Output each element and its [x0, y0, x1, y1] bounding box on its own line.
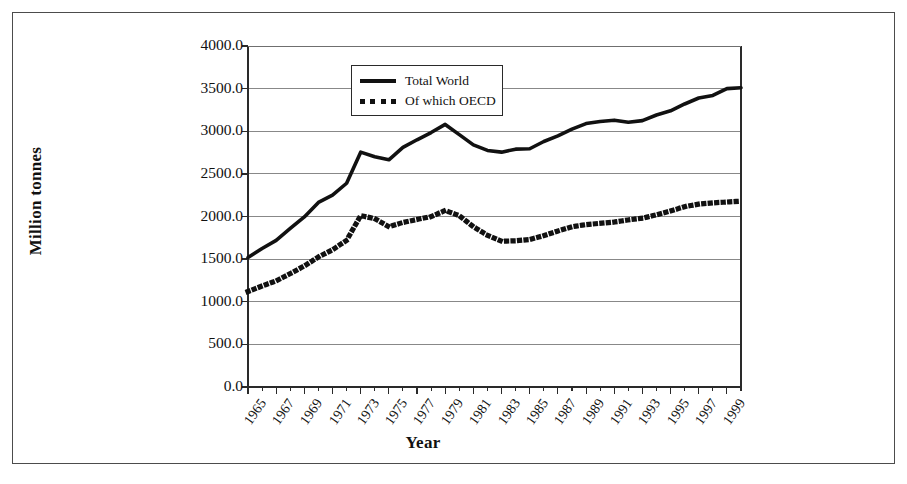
solid-line-swatch-icon [358, 74, 398, 88]
x-axis-title: Year [343, 433, 503, 453]
legend-label-total-world: Total World [405, 73, 469, 89]
y-axis-title: Million tonnes [26, 116, 46, 286]
legend-item-of-which-oecd: Of which OECD [358, 91, 496, 111]
dotted-line-swatch-icon [358, 94, 398, 108]
legend-item-total-world: Total World [358, 71, 496, 91]
chart-figure-frame: 0.0500.01000.01500.02000.02500.03000.035… [12, 12, 895, 464]
legend-label-of-which-oecd: Of which OECD [405, 93, 496, 109]
chart-legend: Total World Of which OECD [351, 65, 503, 116]
